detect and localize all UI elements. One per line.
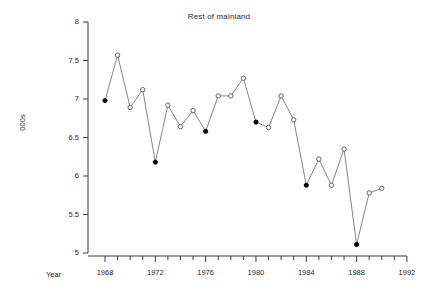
data-point-open [241, 76, 245, 80]
data-point-open [115, 53, 119, 57]
data-point-open [216, 94, 220, 98]
data-point-open [342, 147, 346, 151]
data-point-filled [153, 160, 157, 164]
y-axis-tick-label: 6 [53, 172, 79, 180]
y-axis-tick-label: 5.5 [53, 211, 79, 219]
data-point-open [367, 191, 371, 195]
data-point-filled [304, 183, 308, 187]
y-axis-tick-label: 7 [53, 95, 79, 103]
y-axis-tick-label: 7.5 [53, 57, 79, 65]
data-series-group [103, 53, 384, 247]
y-axis-tick-label: 8 [53, 18, 79, 26]
data-point-filled [355, 242, 359, 246]
x-axis-tick-label: 1972 [135, 269, 175, 277]
data-point-open [229, 94, 233, 98]
x-axis-tick-label: 1984 [286, 269, 326, 277]
data-point-open [178, 125, 182, 129]
data-point-open [380, 186, 384, 190]
x-axis-tick-label: 1992 [387, 269, 427, 277]
x-axis-tick-label: 1988 [337, 269, 377, 277]
series-line [105, 55, 382, 244]
data-point-filled [204, 129, 208, 133]
x-axis-tick-label: 1976 [186, 269, 226, 277]
x-axis-tick-label: 1968 [85, 269, 125, 277]
data-point-open [317, 157, 321, 161]
data-point-filled [254, 120, 258, 124]
y-axis-tick-label: 5 [53, 249, 79, 257]
axes-group [83, 22, 407, 262]
data-point-filled [103, 98, 107, 102]
data-point-open [141, 88, 145, 92]
data-point-open [166, 103, 170, 107]
data-point-open [279, 94, 283, 98]
data-point-open [191, 108, 195, 112]
y-axis-tick-label: 6.5 [53, 134, 79, 142]
chart-container: Rest of mainland 000s Year 55.566.577.58… [0, 0, 438, 296]
x-axis-tick-label: 1980 [236, 269, 276, 277]
data-point-open [128, 105, 132, 109]
data-point-open [292, 118, 296, 122]
data-point-open [266, 125, 270, 129]
data-point-open [329, 183, 333, 187]
